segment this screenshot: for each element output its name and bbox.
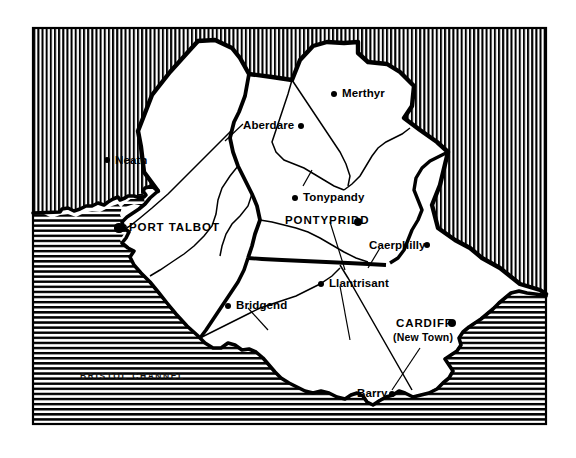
settlement-label-neath: Neath [115, 155, 147, 167]
sea-label-bristol-channel: BRISTOL CHANNEL [80, 372, 185, 381]
settlement-dot-port-talbot [114, 223, 123, 232]
map-canvas [0, 0, 576, 458]
settlement-label-llantrisant: Llantrisant [329, 278, 389, 290]
settlement-label-aberdare: Aberdare [243, 120, 294, 132]
settlement-label-merthyr: Merthyr [342, 88, 385, 100]
settlement-label-port-talbot: PORT TALBOT [129, 222, 220, 234]
settlement-sublabel-cardiff: (New Town) [393, 332, 453, 343]
settlement-label-barry: Barry [357, 388, 388, 400]
settlement-label-tonypandy: Tonypandy [303, 192, 364, 204]
settlement-label-pontypridd: PONTYPRIDD [285, 215, 369, 227]
settlement-label-cardiff: CARDIFF [396, 318, 453, 330]
settlement-label-caerphilly: Caerphilly [369, 240, 426, 252]
map-figure: NeathPORT TALBOTAberdareMerthyrTonypandy… [0, 0, 576, 458]
settlement-label-bridgend: Bridgend [236, 300, 287, 312]
